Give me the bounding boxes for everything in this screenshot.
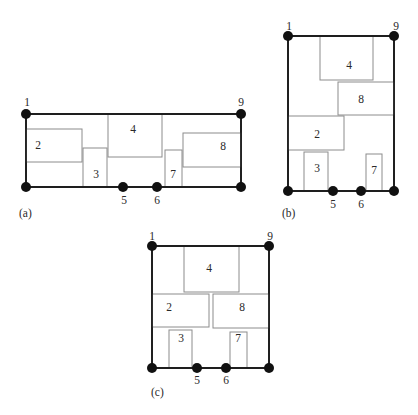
panel-c-box-2-label: 2: [166, 301, 172, 313]
panel-c-node-9: [264, 241, 274, 251]
panel-a-box-8: [183, 133, 241, 167]
panel-c-node-1: [147, 241, 157, 251]
panel-a-node-6-label: 6: [154, 194, 160, 206]
panel-b-node-1: [283, 31, 293, 41]
panel-b-box-3-label: 3: [314, 162, 320, 174]
panel-a-box-8-label: 8: [220, 140, 226, 152]
panel-a-node-1-label: 1: [24, 96, 30, 108]
panel-c-node-bottom-right: [264, 363, 274, 373]
panel-c-node-9-label: 9: [267, 230, 273, 242]
panel-b-node-1-label: 1: [286, 20, 292, 32]
panel-c-node-6-label: 6: [223, 374, 229, 386]
panel-c-box-4-label: 4: [206, 262, 212, 274]
panel-a-node-5: [118, 182, 128, 192]
panel-b-box-2-label: 2: [314, 128, 320, 140]
panel-c-node-1-label: 1: [149, 230, 155, 242]
panel-a-node-5-label: 5: [121, 194, 127, 206]
panel-b-box-8-label: 8: [358, 93, 364, 105]
panel-b-node-9: [389, 31, 399, 41]
panel-a-box-7-label: 7: [170, 168, 176, 180]
panel-c-node-5: [192, 363, 202, 373]
panel-b-node-5: [328, 186, 338, 196]
panel-c-box-3-label: 3: [178, 332, 184, 344]
panel-c-node-5-label: 5: [194, 374, 200, 386]
panel-c-node-bottom-left: [147, 363, 157, 373]
panel-c-box-7-label: 7: [235, 332, 241, 344]
panel-b-box-4-label: 4: [346, 59, 352, 71]
panel-b-box-8: [338, 82, 394, 115]
panel-a-box-2-label: 2: [35, 139, 41, 151]
panel-b-node-6-label: 6: [358, 198, 364, 210]
panel-a-node-bottom-right: [236, 182, 246, 192]
panel-b: 4 8 2 3 7 1 9 5 6 (b): [282, 20, 399, 220]
panel-a-node-6: [152, 182, 162, 192]
panel-a-node-9: [236, 109, 246, 119]
panel-b-caption: (b): [282, 207, 296, 220]
panel-a-box-4-label: 4: [130, 123, 136, 135]
panel-b-box-7-label: 7: [371, 164, 377, 176]
panel-a-node-9-label: 9: [238, 96, 244, 108]
panel-c-box-2: [152, 294, 209, 327]
panel-c-caption: (c): [151, 386, 164, 399]
panel-a: 2 3 4 7 8 1 9 5 6 (a): [19, 96, 246, 220]
panel-a-node-bottom-left: [21, 182, 31, 192]
panel-c-node-6: [221, 363, 231, 373]
panel-b-node-bottom-left: [283, 186, 293, 196]
panel-b-box-4: [320, 36, 373, 80]
panel-b-node-6: [356, 186, 366, 196]
panel-c-box-8-label: 8: [239, 301, 245, 313]
panel-a-node-1: [21, 109, 31, 119]
panel-a-box-3-label: 3: [93, 168, 99, 180]
panel-a-box-4: [108, 114, 162, 157]
panel-c: 4 2 8 3 7 1 9 5 6 (c): [147, 230, 274, 399]
panel-a-caption: (a): [19, 207, 32, 220]
panel-b-node-5-label: 5: [330, 198, 336, 210]
panel-b-node-9-label: 9: [393, 20, 399, 32]
panel-b-node-bottom-right: [389, 186, 399, 196]
floorplan-layout-figure: 2 3 4 7 8 1 9 5 6 (a) 4 8 2 3 7: [0, 0, 418, 415]
